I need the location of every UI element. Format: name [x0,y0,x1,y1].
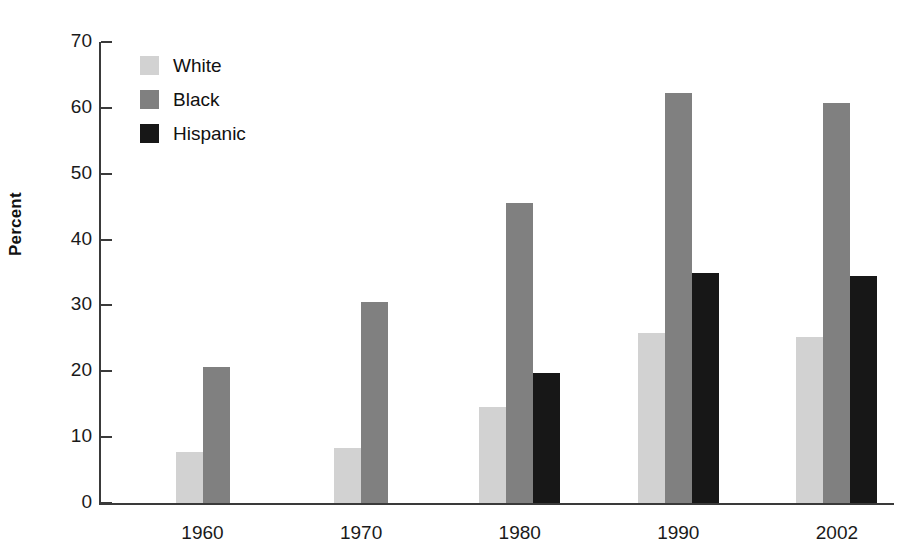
y-tick-label-30: 30 [34,294,92,314]
legend-label-text: Black [173,90,219,109]
bar-black-2002 [823,103,850,503]
x-label-1980: 1980 [460,522,580,544]
bar-black-1960 [203,367,230,503]
chart-legend: WhiteBlackHispanic [140,50,246,152]
legend-item-black: Black [140,84,246,114]
bar-white-1960 [176,452,203,503]
bar-white-1980 [479,407,506,503]
y-tick-label-50: 50 [34,163,92,183]
x-label-1970: 1970 [301,522,421,544]
legend-item-white: White [140,50,246,80]
y-tick-label-text: 30 [46,294,92,313]
y-tick-label-40: 40 [34,229,92,249]
legend-swatch-black-icon [140,90,159,109]
bar-hispanic-1980 [533,373,560,503]
bar-black-1980 [506,203,533,503]
y-tick-label-text: 60 [46,97,92,116]
bar-black-1990 [665,93,692,503]
bar-white-1970 [334,448,361,503]
y-tick-label-70: 70 [34,31,92,51]
bar-black-1970 [361,302,388,503]
y-tick-label-text: 0 [46,492,92,511]
y-tick-label-text: 20 [46,360,92,379]
y-tick-label-text: 40 [46,229,92,248]
y-tick-label-60: 60 [34,97,92,117]
bar-white-1990 [638,333,665,503]
legend-item-hispanic: Hispanic [140,118,246,148]
bar-hispanic-1990 [692,273,719,503]
x-label-1960: 1960 [143,522,263,544]
x-label-1990: 1990 [618,522,738,544]
bar-white-2002 [796,337,823,503]
y-axis-title: Percent [6,146,30,256]
x-label-2002: 2002 [777,522,897,544]
y-tick-label-text: 10 [46,426,92,445]
legend-swatch-hispanic-icon [140,124,159,143]
y-tick-label-20: 20 [34,360,92,380]
y-tick-label-text: 70 [46,31,92,50]
y-tick-label-10: 10 [34,426,92,446]
bar-hispanic-2002 [850,276,877,503]
legend-label-text: White [173,56,222,75]
x-axis-line [99,503,894,505]
legend-label-text: Hispanic [173,124,246,143]
legend-swatch-white-icon [140,56,159,75]
y-tick-label-0: 0 [34,492,92,512]
bar-chart: Percent 010203040506070 1960197019801990… [0,0,905,557]
y-tick-label-text: 50 [46,163,92,182]
